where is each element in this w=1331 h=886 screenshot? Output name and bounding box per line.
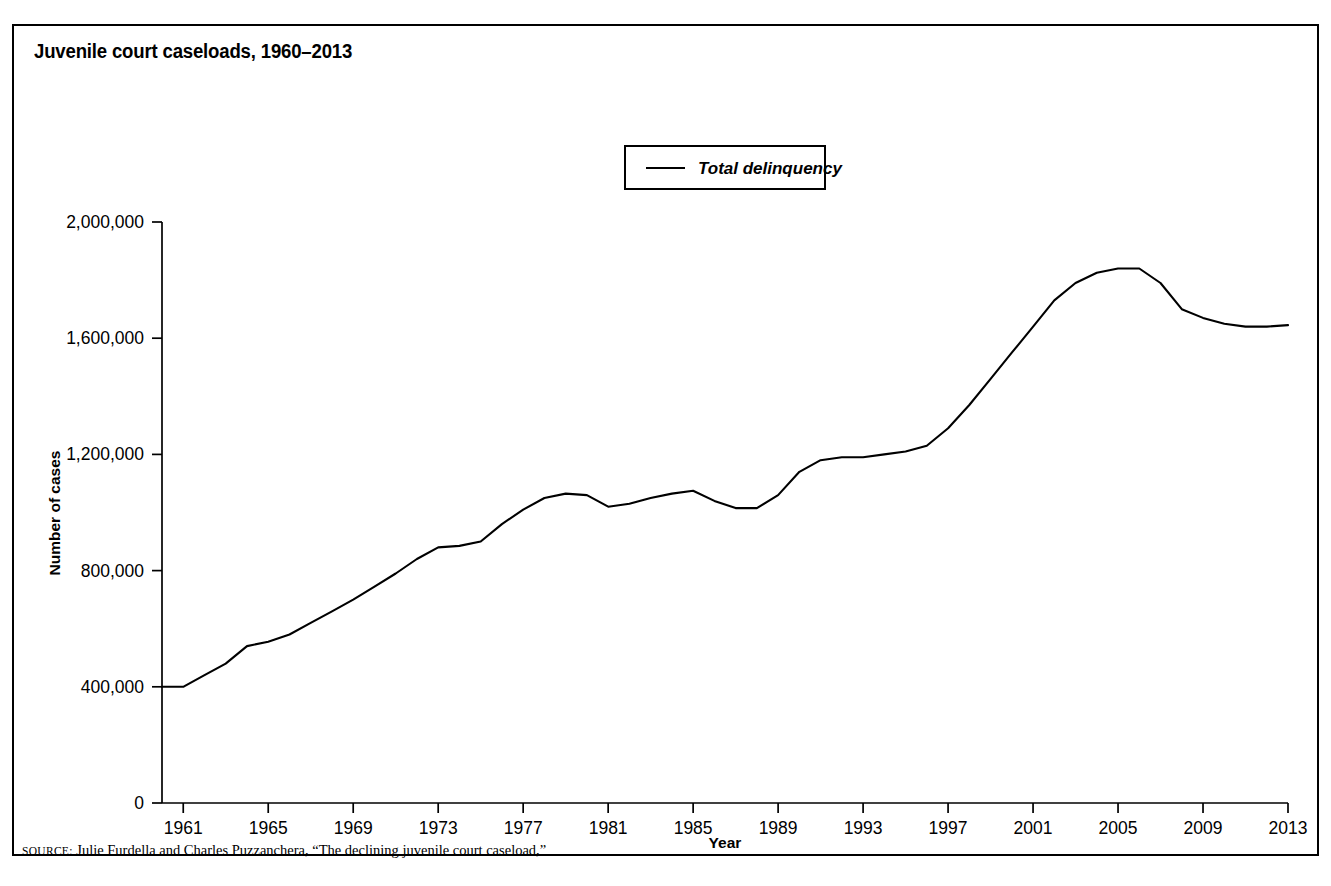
line-chart-svg: Total delinquency 0400,000800,0001,200,0… xyxy=(14,26,1321,858)
series-line-total-delinquency xyxy=(162,269,1288,687)
x-tick-label: 2009 xyxy=(1184,818,1223,838)
y-tick-label: 2,000,000 xyxy=(66,212,144,232)
source-note: SOURCE: Julie Furdella and Charles Puzza… xyxy=(22,842,1302,859)
x-tick-label: 1981 xyxy=(589,818,628,838)
y-tick-label: 0 xyxy=(134,793,144,813)
legend-label-total-delinquency: Total delinquency xyxy=(698,159,843,178)
x-tick-label: 1997 xyxy=(929,818,968,838)
figure-panel: Juvenile court caseloads, 1960–2013 Tota… xyxy=(12,24,1319,856)
source-prefix: SOURCE: xyxy=(22,845,73,857)
x-tick-label: 1969 xyxy=(334,818,373,838)
x-tick-label: 2013 xyxy=(1269,818,1308,838)
x-tick-label: 1977 xyxy=(504,818,543,838)
source-text: Julie Furdella and Charles Puzzanchera, … xyxy=(73,842,546,858)
legend: Total delinquency xyxy=(625,146,843,189)
plot-area: Total delinquency 0400,000800,0001,200,0… xyxy=(14,26,1321,858)
y-tick-label: 1,200,000 xyxy=(66,444,144,464)
x-tick-label: 1961 xyxy=(164,818,203,838)
x-tick-label: 2005 xyxy=(1099,818,1138,838)
x-tick-group: 1961196519691973197719811985198919931997… xyxy=(164,803,1308,838)
y-tick-label: 800,000 xyxy=(81,561,145,581)
y-axis-title: Number of cases xyxy=(46,451,63,576)
x-tick-label: 1973 xyxy=(419,818,458,838)
y-tick-label: 400,000 xyxy=(81,677,145,697)
y-tick-group: 0400,000800,0001,200,0001,600,0002,000,0… xyxy=(66,212,162,813)
x-tick-label: 1985 xyxy=(674,818,713,838)
x-tick-label: 1993 xyxy=(844,818,883,838)
x-tick-label: 1989 xyxy=(759,818,798,838)
x-tick-label: 1965 xyxy=(249,818,288,838)
x-tick-label: 2001 xyxy=(1014,818,1053,838)
y-tick-label: 1,600,000 xyxy=(66,328,144,348)
